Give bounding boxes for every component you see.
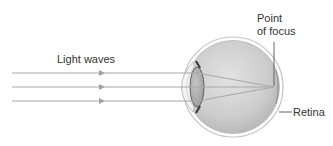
retina-label: Retina <box>293 106 325 118</box>
ray-arrow-icons <box>99 70 105 104</box>
light-waves-label: Light waves <box>57 53 115 65</box>
arrow-right-icon <box>99 98 105 104</box>
point-of-focus-label-line2: of focus <box>257 25 296 37</box>
point-of-focus-label-line1: Point <box>257 12 282 24</box>
arrow-right-icon <box>99 70 105 76</box>
eye-diagram <box>0 0 333 146</box>
arrow-right-icon <box>99 84 105 90</box>
